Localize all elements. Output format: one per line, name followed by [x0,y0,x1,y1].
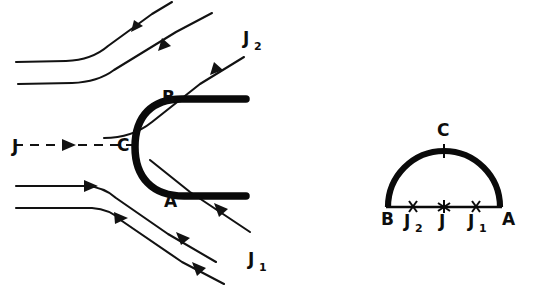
label-right-j2-letter: J [403,211,410,231]
left-panel: J J 2 J 1 B C A [11,2,267,284]
label-right-j: J [438,211,445,231]
arrowhead-lower-inner-1 [84,180,98,192]
shock-front-curve [135,99,246,196]
label-lower-branch-letter: J [247,249,254,269]
label-right-j1: J 1 [467,211,487,235]
label-lower-branch-J1: J 1 [247,249,267,274]
label-point-c: C [117,135,129,155]
figure-root: J J 2 J 1 B C A [0,0,537,286]
right-panel: B C A J 2 J J 1 [381,120,516,235]
label-right-j1-letter: J [467,211,474,231]
figure-canvas: J J 2 J 1 B C A [0,0,537,286]
label-right-end-a: A [502,209,516,229]
arrowhead-center-dashed [62,139,76,151]
streamline-upper-outer [16,2,172,62]
arrowhead-lower-outer-1 [114,212,128,224]
label-right-j2: J 2 [403,211,423,235]
label-upper-branch-letter: J [242,28,249,48]
label-upper-branch-subscript: 2 [254,40,262,53]
label-right-apex-c: C [437,120,449,140]
lower-streamlines-group [16,160,250,284]
label-point-a: A [164,191,178,211]
label-lower-branch-subscript: 1 [259,261,267,274]
label-right-j1-subscript: 1 [479,222,487,235]
shock-front-group [135,99,246,196]
label-point-b: B [162,87,175,107]
label-incoming-current-J: J [11,136,18,156]
semicircle-arc [388,151,500,207]
upper-streamlines-group [16,2,244,138]
label-right-j2-subscript: 2 [415,222,423,235]
streamline-upper-inner [18,13,212,84]
arrowhead-lower-inner-2 [176,232,190,245]
label-upper-branch-J2: J 2 [242,28,262,53]
label-right-end-b: B [381,209,394,229]
